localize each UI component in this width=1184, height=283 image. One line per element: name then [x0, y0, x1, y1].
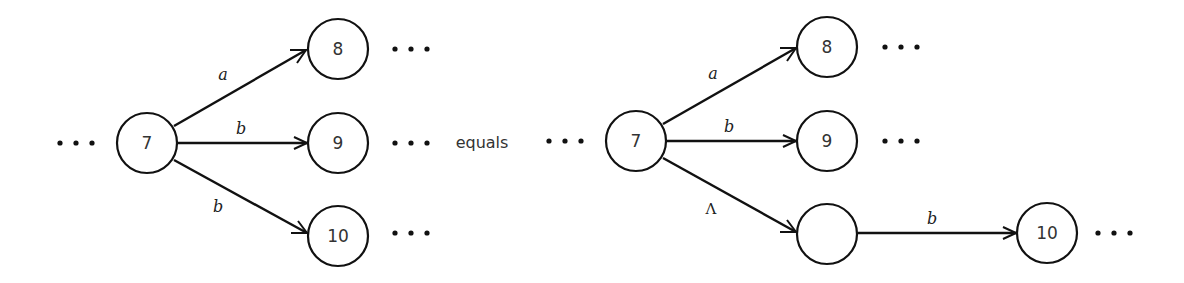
ellipsis-8-out	[882, 44, 919, 49]
svg-text:8: 8	[822, 37, 833, 57]
edge-7-9: b	[177, 119, 307, 149]
left-diagram: a b b 7 8 9 10	[57, 19, 429, 266]
state-node-blank	[797, 204, 857, 264]
svg-text:8: 8	[333, 39, 344, 59]
state-node-9: 9	[308, 113, 368, 173]
edge-7-8: a	[174, 50, 306, 126]
edge-label: a	[218, 65, 228, 84]
edge-7-blank: Λ	[663, 158, 796, 232]
ellipsis-left-in	[57, 140, 94, 145]
svg-text:7: 7	[631, 131, 642, 151]
edge-label: b	[927, 209, 937, 228]
edge-7-8: a	[663, 48, 796, 124]
state-node-9: 9	[797, 111, 857, 171]
state-node-10: 10	[1017, 203, 1077, 263]
equals-label: equals	[456, 133, 509, 152]
ellipsis-10-out	[1095, 230, 1132, 235]
edge-label: a	[708, 64, 718, 83]
state-node-10: 10	[308, 206, 368, 266]
ellipsis-10-out	[392, 230, 429, 235]
edge-blank-10: b	[858, 209, 1016, 239]
edge-label-lambda: Λ	[705, 200, 717, 218]
ellipsis-9-out	[392, 140, 429, 145]
state-node-8: 8	[308, 19, 368, 79]
state-node-8: 8	[797, 17, 857, 77]
nfa-equivalence-diagram: a b b 7 8 9 10	[0, 0, 1184, 283]
state-node-7: 7	[606, 111, 666, 171]
edge-7-10: b	[174, 160, 307, 233]
svg-text:7: 7	[142, 133, 153, 153]
edge-label: b	[213, 197, 223, 216]
svg-text:9: 9	[333, 133, 344, 153]
ellipsis-9-out	[882, 138, 919, 143]
svg-text:10: 10	[1036, 223, 1058, 243]
edge-label: b	[236, 119, 246, 138]
ellipsis-8-out	[392, 46, 429, 51]
edge-label: b	[724, 117, 734, 136]
state-node-7: 7	[117, 113, 177, 173]
svg-text:9: 9	[822, 131, 833, 151]
ellipsis-right-in	[546, 138, 583, 143]
right-diagram: a b Λ b 7 8 9	[546, 17, 1132, 264]
svg-text:10: 10	[327, 226, 349, 246]
edge-7-9: b	[666, 117, 796, 147]
